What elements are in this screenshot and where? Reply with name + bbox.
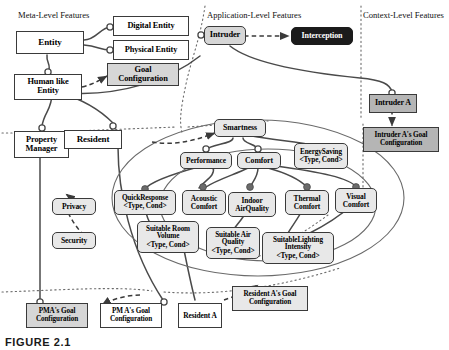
node-comfort[interactable]: Comfort [237, 152, 281, 169]
node-pma-goal-configuration-filled[interactable]: PMA's Goal Configuration [26, 303, 88, 328]
node-pm-a-goal-configuration[interactable]: PM A's Goal Configuration [100, 303, 162, 328]
edge-entity-physical [84, 45, 110, 50]
node-suitable-lighting-intensity[interactable]: SuitableLighting Intensity <Type, Cond> [262, 232, 334, 264]
node-acoustic-comfort[interactable]: Acoustic Comfort [182, 190, 226, 215]
edge-humanlike-goalconfig [82, 76, 107, 87]
node-resident[interactable]: Resident [64, 130, 122, 149]
layer-label-context: Context-Level Features [363, 10, 444, 20]
divider-horizontal-bottom-left [2, 289, 152, 292]
node-suitable-room-volume-params: <Type, Cond> [146, 241, 189, 248]
edge-resident-smartness [152, 133, 215, 143]
node-intruder-a[interactable]: Intruder A [369, 94, 417, 113]
node-intruder-a-goal-configuration[interactable]: Intruder A's Goal Configuration [363, 127, 439, 152]
node-thermal-comfort[interactable]: Thermal Comfort [285, 190, 329, 215]
edge-comfort-visual [276, 166, 356, 187]
edge-performance-quickresponse [145, 167, 198, 189]
node-suitable-room-volume-label: Suitable Room Volume [139, 226, 197, 241]
node-suitable-air-quality-label: Suitable Air Quality [208, 232, 258, 247]
node-human-like-entity[interactable]: Human like Entity [14, 74, 82, 100]
node-suitable-lighting-intensity-params: <Type, Cond> [276, 252, 319, 259]
node-interception[interactable]: Interception [291, 27, 353, 45]
node-digital-entity[interactable]: Digital Entity [113, 16, 189, 36]
mandatory-circle-indoorair [247, 184, 254, 191]
node-energy-saving-params: <Type, Cond> [299, 156, 342, 163]
layer-label-application: Application-Level Features [207, 10, 301, 20]
node-smartness[interactable]: Smartness [214, 119, 266, 137]
node-indoor-air-quality[interactable]: Indoor AirQuality [228, 192, 276, 217]
node-suitable-room-volume[interactable]: Suitable Room Volume <Type, Cond> [137, 221, 199, 253]
edge-entity-digital [84, 27, 110, 40]
edge-roomvolume-residentA [183, 245, 195, 300]
feature-model-diagram: Meta-Level Features Application-Level Fe… [0, 0, 449, 350]
layer-label-meta: Meta-Level Features [18, 10, 89, 20]
edge-comfort-thermal [268, 168, 307, 187]
node-property-manager[interactable]: Property Manager [14, 131, 69, 158]
node-quick-response-params: <Type, Cond> [123, 202, 166, 209]
node-resident-a[interactable]: Resident A [178, 303, 222, 328]
node-energy-saving[interactable]: EnergySaving <Type, Cond> [294, 143, 348, 169]
node-resident-a-goal-configuration[interactable]: Resident A's Goal Configuration [232, 286, 308, 311]
optional-circle-resident [110, 123, 116, 129]
edge-intruder-intruderA [230, 46, 392, 92]
node-quick-response[interactable]: QuickResponse <Type, Cond> [114, 190, 176, 215]
node-entity[interactable]: Entity [16, 31, 84, 54]
node-suitable-lighting-intensity-label: SuitableLighting Intensity [264, 237, 332, 252]
node-physical-entity[interactable]: Physical Entity [113, 40, 189, 60]
figure-caption: FIGURE 2.1 [5, 336, 71, 348]
edge-smartness-performance [206, 138, 233, 150]
node-privacy[interactable]: Privacy [52, 198, 96, 215]
node-intruder[interactable]: Intruder [204, 26, 246, 45]
node-visual-comfort[interactable]: Visual Comfort [335, 188, 377, 213]
node-suitable-air-quality-params: <Type, Cond> [211, 247, 254, 254]
node-performance[interactable]: Performance [180, 152, 232, 169]
node-goal-configuration[interactable]: Goal Configuration [107, 63, 179, 86]
node-security[interactable]: Security [52, 232, 96, 249]
edge-comfort-acoustic2 [206, 168, 248, 187]
node-suitable-air-quality[interactable]: Suitable Air Quality <Type, Cond> [206, 227, 260, 259]
